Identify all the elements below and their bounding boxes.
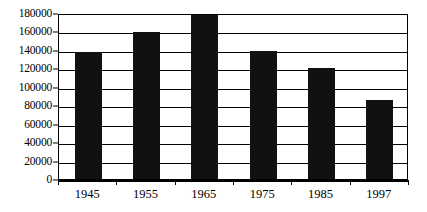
y-axis-tick-label: 120000: [0, 64, 52, 76]
plot-area: [58, 14, 408, 180]
x-axis-tick-mark: [350, 180, 351, 185]
y-axis-tick-mark: [53, 69, 58, 70]
x-axis-tick-label: 1997: [366, 188, 391, 201]
gridline: [59, 144, 407, 145]
y-axis-tick-mark: [53, 143, 58, 144]
y-axis-tick-label: 160000: [0, 27, 52, 39]
y-axis-tick-label: 180000: [0, 8, 52, 20]
y-axis-tick-label: 0: [0, 174, 52, 186]
y-axis-tick-mark: [53, 87, 58, 88]
x-axis-tick-label: 1955: [133, 188, 158, 201]
bar: [191, 14, 218, 179]
y-axis-tick-label: 20000: [0, 156, 52, 168]
y-axis-tick-label: 100000: [0, 82, 52, 94]
gridline: [59, 52, 407, 53]
y-axis-tick-label: 40000: [0, 137, 52, 149]
bar: [75, 52, 102, 179]
bar: [308, 68, 335, 179]
y-axis-tick-mark: [53, 14, 58, 15]
x-axis-tick-mark: [233, 180, 234, 185]
x-axis-tick-mark: [116, 180, 117, 185]
gridline: [59, 33, 407, 34]
x-axis-tick-mark: [291, 180, 292, 185]
x-axis-tick-label: 1965: [191, 188, 216, 201]
gridline: [59, 163, 407, 164]
y-axis-tick-mark: [53, 50, 58, 51]
y-axis-tick-label: 60000: [0, 119, 52, 131]
x-axis-tick-label: 1985: [308, 188, 333, 201]
bar: [133, 32, 160, 179]
bar: [250, 51, 277, 179]
y-axis: 0200004000060000800001000001200001400001…: [0, 0, 52, 212]
gridline: [59, 107, 407, 108]
bar: [366, 100, 393, 179]
x-axis-tick-label: 1975: [250, 188, 275, 201]
gridline: [59, 89, 407, 90]
y-axis-tick-label: 80000: [0, 100, 52, 112]
x-axis-tick-mark: [58, 180, 59, 185]
x-axis-tick-label: 1945: [75, 188, 100, 201]
x-axis-tick-mark: [408, 180, 409, 185]
y-axis-tick-label: 140000: [0, 45, 52, 57]
x-axis-tick-mark: [175, 180, 176, 185]
gridline: [59, 126, 407, 127]
gridline: [59, 70, 407, 71]
y-axis-tick-mark: [53, 124, 58, 125]
y-axis-tick-mark: [53, 106, 58, 107]
y-axis-tick-mark: [53, 32, 58, 33]
y-axis-tick-mark: [53, 161, 58, 162]
bar-chart: 0200004000060000800001000001200001400001…: [0, 0, 427, 212]
